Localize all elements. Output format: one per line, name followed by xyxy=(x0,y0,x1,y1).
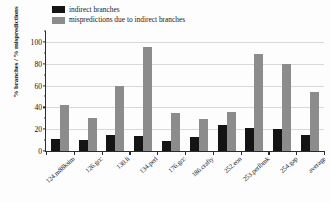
bar xyxy=(134,136,143,151)
bar xyxy=(282,64,291,151)
bar xyxy=(199,119,208,151)
x-axis-label: 254.gap xyxy=(278,155,298,174)
x-axis-labels: 124.m88ksim126.gcc130.li134.perl176.gcc1… xyxy=(45,155,324,202)
bar xyxy=(301,135,310,151)
bar xyxy=(190,137,199,151)
x-axis-tick xyxy=(324,151,325,155)
bar xyxy=(88,118,97,151)
legend-label: mispredictions due to indirect branches xyxy=(69,16,185,23)
bar-group xyxy=(185,31,213,151)
x-axis-label: average xyxy=(307,155,327,174)
x-axis-tick xyxy=(102,151,103,155)
x-axis-label: 252.eon xyxy=(222,155,242,174)
bar-group xyxy=(157,31,185,151)
x-axis-label: 124.m88ksim xyxy=(44,155,76,184)
bar xyxy=(60,105,69,151)
x-axis-tick xyxy=(241,151,242,155)
bar xyxy=(218,125,227,151)
bar xyxy=(162,141,171,151)
legend-swatch-icon xyxy=(52,17,65,24)
x-axis-tick xyxy=(296,151,297,155)
x-axis-label: 186.crafty xyxy=(190,155,215,178)
x-axis-label: 134.perl xyxy=(138,155,159,175)
bar xyxy=(254,54,263,151)
legend-item-indirect-branches: indirect branches xyxy=(52,6,185,13)
bar xyxy=(245,128,254,151)
bar xyxy=(143,47,152,151)
y-axis-tick-label: 0 xyxy=(38,147,42,156)
bar xyxy=(227,112,236,151)
legend-swatch-icon xyxy=(52,6,65,13)
bar-groups xyxy=(46,31,324,151)
x-axis-tick xyxy=(46,151,47,155)
bar-group xyxy=(213,31,241,151)
x-axis-label: 126.gcc xyxy=(83,155,103,174)
bar-group xyxy=(296,31,324,151)
y-axis-tick-label: 60 xyxy=(34,81,42,90)
y-axis-title: % branches / % mispredictions xyxy=(12,0,20,112)
x-axis-tick xyxy=(268,151,269,155)
x-axis-label: 130.li xyxy=(115,155,131,170)
x-axis-tick xyxy=(74,151,75,155)
y-axis-tick-label: 100 xyxy=(31,37,42,46)
bar-group xyxy=(74,31,102,151)
chart-screenshot: indirect branches mispredictions due to … xyxy=(0,0,331,202)
y-axis-tick-label: 40 xyxy=(34,103,42,112)
legend-label: indirect branches xyxy=(69,6,120,13)
bar xyxy=(171,113,180,151)
plot-area: 020406080100 xyxy=(45,31,324,152)
bar xyxy=(79,140,88,151)
x-axis-tick xyxy=(213,151,214,155)
y-axis-tick-label: 20 xyxy=(34,125,42,134)
x-axis-tick xyxy=(129,151,130,155)
x-axis-label: 253.perlbmk xyxy=(241,155,271,183)
x-axis-label: 176.gcc xyxy=(167,155,187,174)
bar-group xyxy=(46,31,74,151)
bar-group xyxy=(241,31,269,151)
legend-item-mispredictions: mispredictions due to indirect branches xyxy=(52,16,185,23)
bar-group xyxy=(129,31,157,151)
bar xyxy=(115,86,124,151)
bar xyxy=(106,135,115,151)
bar xyxy=(273,129,282,151)
x-axis-tick xyxy=(185,151,186,155)
x-axis-tick xyxy=(157,151,158,155)
bar-group xyxy=(102,31,130,151)
y-axis-tick-label: 80 xyxy=(34,59,42,68)
bar xyxy=(51,139,60,151)
bar-group xyxy=(268,31,296,151)
chart-legend: indirect branches mispredictions due to … xyxy=(52,6,185,24)
bar xyxy=(310,92,319,151)
